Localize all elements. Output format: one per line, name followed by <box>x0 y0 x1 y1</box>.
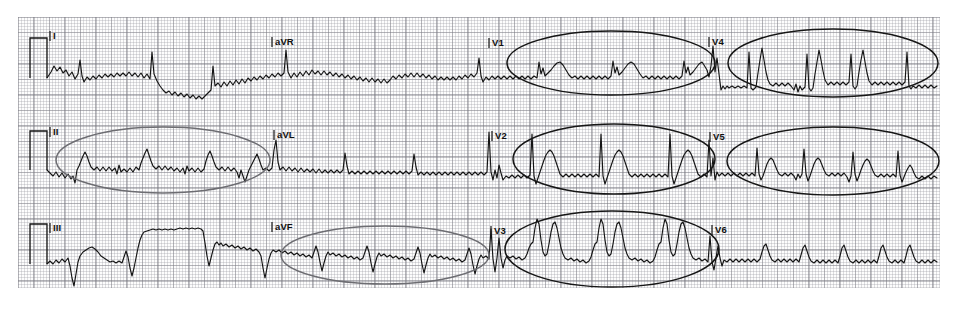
lead-label-II: II <box>53 127 58 137</box>
annotation-ellipse-v5[interactable] <box>727 127 939 195</box>
lead-label-aVF: aVF <box>275 222 293 232</box>
ecg-row-1 <box>30 31 937 99</box>
ecg-row-3 <box>30 219 937 286</box>
lead-label-V5: V5 <box>713 132 725 142</box>
ecg-strip: I aVR V1 V4 II aVL V2 V5 III aVF V3 V6 <box>0 0 960 313</box>
lead-label-I: I <box>53 31 56 41</box>
calibration-pulse-row3 <box>30 224 47 264</box>
lead-label-III: III <box>53 223 61 233</box>
lead-label-aVR: aVR <box>275 37 294 47</box>
ecg-traces <box>0 0 960 313</box>
lead-label-V4: V4 <box>712 37 724 47</box>
calibration-pulse-row1 <box>30 38 47 78</box>
ecg-trace-row-1 <box>47 46 937 99</box>
lead-label-V1: V1 <box>492 38 504 48</box>
ecg-row-2 <box>30 127 937 184</box>
calibration-pulse-row2 <box>30 131 47 170</box>
lead-label-V6: V6 <box>715 225 727 235</box>
ecg-trace-row-3 <box>47 219 937 286</box>
lead-label-aVL: aVL <box>277 130 295 140</box>
lead-label-V3: V3 <box>494 226 506 236</box>
lead-label-V2: V2 <box>495 131 507 141</box>
